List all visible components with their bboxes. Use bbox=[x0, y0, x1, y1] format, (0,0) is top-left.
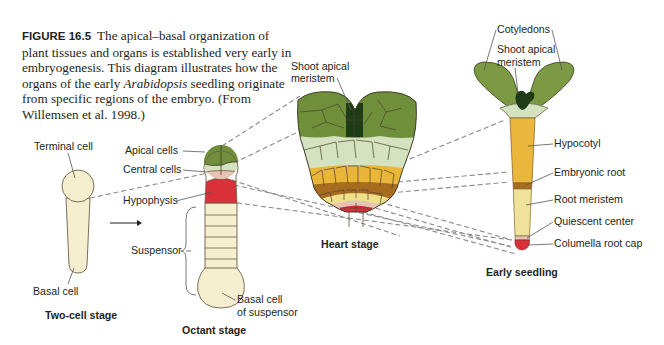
label-seedling-sam-2: meristem bbox=[497, 56, 541, 68]
label-cotyledons: Cotyledons bbox=[497, 23, 550, 35]
label-apical-cells: Apical cells bbox=[125, 144, 178, 156]
label-heart-sam-1: Shoot apical bbox=[291, 60, 349, 72]
basal-cell-shape bbox=[66, 198, 90, 273]
progression-arrow bbox=[110, 220, 142, 226]
embryogenesis-diagram: Terminal cell Basal cell Two-cell stage bbox=[0, 0, 664, 345]
early-seedling: Cotyledons Shoot apical meristem Hypocot… bbox=[474, 23, 642, 278]
octant-stage: Apical cells Central cells Hypophysis Su… bbox=[123, 140, 298, 336]
label-quiescent-center: Quiescent center bbox=[554, 215, 635, 227]
right-cotyledon bbox=[528, 62, 574, 108]
label-hypocotyl: Hypocotyl bbox=[554, 137, 601, 149]
stage-title-two-cell: Two-cell stage bbox=[45, 309, 117, 321]
label-central-cells: Central cells bbox=[123, 163, 181, 175]
label-basal-cell: Basal cell bbox=[33, 285, 78, 297]
left-cotyledon bbox=[474, 62, 520, 108]
label-terminal-cell: Terminal cell bbox=[34, 140, 93, 152]
label-columella-root-cap: Columella root cap bbox=[554, 237, 642, 249]
terminal-cell-shape bbox=[62, 170, 94, 202]
label-basal-cell-of-suspensor-1: Basal cell bbox=[237, 293, 282, 305]
label-basal-cell-of-suspensor-2: of suspensor bbox=[237, 306, 298, 318]
label-suspensor: Suspensor bbox=[131, 244, 182, 256]
two-cell-stage: Terminal cell Basal cell Two-cell stage bbox=[33, 140, 117, 321]
label-embryonic-root: Embryonic root bbox=[554, 166, 625, 178]
label-heart-sam-2: meristem bbox=[291, 72, 335, 84]
label-root-meristem: Root meristem bbox=[554, 193, 623, 205]
label-hypophysis: Hypophysis bbox=[123, 194, 178, 206]
label-seedling-sam-1: Shoot apical bbox=[497, 43, 555, 55]
stage-title-octant: Octant stage bbox=[182, 324, 246, 336]
stage-title-heart: Heart stage bbox=[321, 238, 379, 250]
stage-title-seedling: Early seedling bbox=[486, 266, 558, 278]
